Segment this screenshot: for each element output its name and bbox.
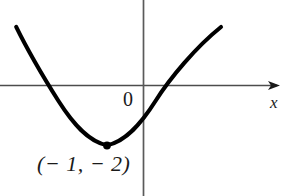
vertex-coordinate-label: (− 1, − 2) bbox=[37, 153, 130, 175]
origin-label: 0 bbox=[123, 89, 133, 109]
parabola-figure: 0 x (− 1, − 2) bbox=[0, 0, 288, 196]
vertex-dot bbox=[103, 142, 111, 150]
x-axis-label: x bbox=[270, 94, 278, 111]
